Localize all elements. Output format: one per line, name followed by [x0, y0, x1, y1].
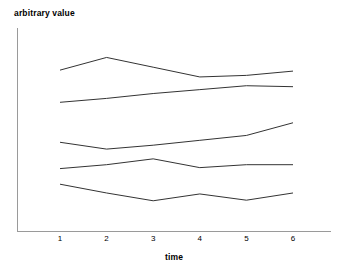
series-layer — [60, 57, 293, 200]
x-tick-label-6: 6 — [286, 234, 300, 243]
line-series-4 — [60, 159, 293, 169]
line-series-2 — [60, 86, 293, 103]
x-tick-label-3: 3 — [146, 234, 160, 243]
x-tick-label-2: 2 — [100, 234, 114, 243]
line-series-3 — [60, 123, 293, 149]
line-series-5 — [60, 184, 293, 201]
x-tick-label-4: 4 — [193, 234, 207, 243]
x-tick-label-5: 5 — [239, 234, 253, 243]
line-chart: arbitrary value 123456 time — [0, 0, 348, 274]
line-series-1 — [60, 57, 293, 76]
x-axis-title-text: time — [165, 252, 183, 262]
x-axis-title: time — [0, 252, 348, 262]
plot-area — [0, 0, 348, 274]
x-tick-label-1: 1 — [53, 234, 67, 243]
